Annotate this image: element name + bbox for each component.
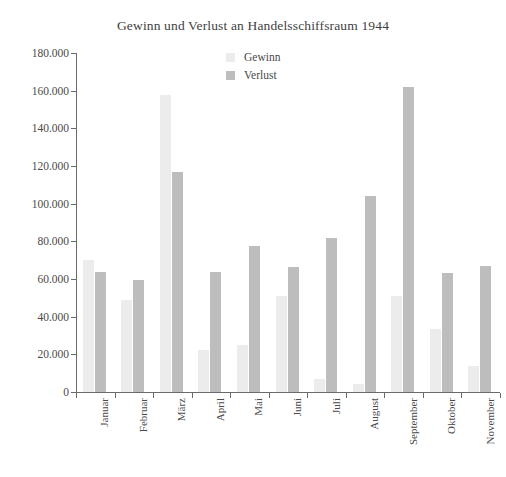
y-axis-tick <box>71 241 76 242</box>
chart-title: Gewinn und Verlust an Handelsschiffsraum… <box>0 18 506 34</box>
plot-area: 180.000160.000140.000120.000100.00080.00… <box>76 53 500 392</box>
y-axis-tick <box>71 166 76 167</box>
y-axis-tick-label: 80.000 <box>37 235 69 247</box>
bar-verlust-märz <box>172 172 183 392</box>
y-axis-tick-label: 140.000 <box>32 122 69 134</box>
bar-verlust-mai <box>249 246 260 392</box>
x-axis-labels: JanuarFebruarMärzAprilMaiJuniJuliAugustS… <box>76 398 500 477</box>
x-axis-label-oktober: Oktober <box>446 398 457 434</box>
x-axis-label-juli: Juli <box>331 398 342 414</box>
bar-verlust-januar <box>95 272 106 392</box>
bar-verlust-juli <box>326 238 337 392</box>
x-axis-label-november: November <box>485 398 496 444</box>
x-axis-label-februar: Februar <box>138 398 149 432</box>
x-axis-label-mai: Mai <box>253 398 264 416</box>
bar-gewinn-juni <box>276 296 287 392</box>
y-axis-tick-label: 0 <box>63 386 69 398</box>
x-axis-label-juni: Juni <box>292 398 303 416</box>
y-axis-tick-label: 60.000 <box>37 273 69 285</box>
bar-gewinn-januar <box>83 260 94 392</box>
x-axis-label-märz: März <box>176 398 187 421</box>
x-axis-label-april: April <box>215 398 226 421</box>
bar-verlust-oktober <box>442 273 453 392</box>
bar-verlust-april <box>210 272 221 392</box>
bar-gewinn-februar <box>121 300 132 392</box>
x-axis-label-januar: Januar <box>99 398 110 427</box>
bar-gewinn-mai <box>237 345 248 392</box>
y-axis-tick-label: 160.000 <box>32 85 69 97</box>
bar-verlust-november <box>480 266 491 392</box>
bar-gewinn-september <box>391 296 402 392</box>
y-axis-line <box>76 53 77 392</box>
x-axis-label-september: September <box>408 398 419 445</box>
x-axis-line <box>76 392 500 393</box>
y-axis-tick-label: 40.000 <box>37 311 69 323</box>
bar-gewinn-november <box>468 366 479 392</box>
chart-container: Gewinn und Verlust an Handelsschiffsraum… <box>0 0 506 477</box>
x-axis-tick <box>500 393 501 398</box>
bar-verlust-august <box>365 196 376 392</box>
y-axis-tick <box>71 91 76 92</box>
y-axis-tick <box>71 53 76 54</box>
y-axis-tick-label: 180.000 <box>32 47 69 59</box>
bar-gewinn-oktober <box>430 329 441 392</box>
x-axis-label-august: August <box>369 398 380 430</box>
y-axis-tick-label: 20.000 <box>37 348 69 360</box>
y-axis-tick <box>71 317 76 318</box>
y-axis-tick <box>71 204 76 205</box>
bar-gewinn-juli <box>314 379 325 392</box>
bar-gewinn-april <box>198 350 209 392</box>
y-axis-tick <box>71 354 76 355</box>
bar-gewinn-märz <box>160 95 171 392</box>
y-axis-tick-label: 100.000 <box>32 198 69 210</box>
y-axis-tick <box>71 128 76 129</box>
y-axis-tick-label: 120.000 <box>32 160 69 172</box>
bar-gewinn-august <box>353 384 364 392</box>
bar-verlust-februar <box>133 280 144 392</box>
y-axis-tick <box>71 279 76 280</box>
bar-verlust-juni <box>288 267 299 392</box>
bar-verlust-september <box>403 87 414 392</box>
